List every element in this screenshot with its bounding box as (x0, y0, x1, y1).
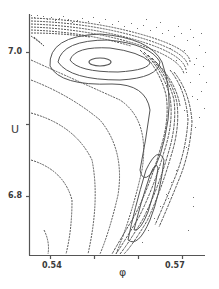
y-axis-label: U (11, 123, 19, 136)
plot-canvas (0, 0, 219, 289)
invariant-curves (31, 34, 169, 254)
y-tick-label-6.8: 6.8 (8, 191, 22, 200)
chaotic-scatter (31, 15, 207, 254)
axes (26, 14, 205, 259)
y-tick-label-7.0: 7.0 (8, 47, 22, 56)
phase-portrait-chart: 7.0 6.8 U 0.54 0.57 φ (0, 0, 219, 289)
x-axis-label: φ (119, 266, 126, 279)
x-tick-label-0.54: 0.54 (42, 261, 62, 270)
x-tick-label-0.57: 0.57 (165, 261, 185, 270)
